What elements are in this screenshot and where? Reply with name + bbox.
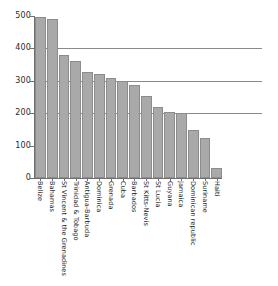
y-tick-label: 200: [15, 109, 31, 117]
bar: [82, 72, 93, 178]
x-tick-label: St Kitts-Nevis: [143, 181, 150, 226]
y-tick-label: 400: [15, 44, 31, 52]
x-tick-label: St Vincent & the Grenadines: [61, 181, 68, 276]
y-tick-label: 500: [15, 12, 31, 20]
bar: [70, 61, 81, 178]
x-tick-label: Grenada: [108, 181, 115, 209]
bar: [211, 168, 222, 178]
bar: [200, 138, 211, 179]
y-tick-label: 300: [15, 77, 31, 85]
bar: [141, 96, 152, 178]
bar: [59, 55, 70, 178]
x-tick-label: Bahamas: [49, 181, 56, 212]
bar: [164, 112, 175, 178]
bar: [106, 78, 117, 178]
bar: [35, 17, 46, 178]
x-tick-label: Antigua-Barbuda: [84, 181, 91, 237]
x-label-cell: Barbados: [129, 181, 140, 285]
x-label-cell: Haiti: [211, 181, 222, 285]
bar: [188, 130, 199, 178]
x-tick-label: Guyana: [166, 181, 173, 207]
x-axis-labels: BelizeBahamasSt Vincent & the Grenadines…: [35, 181, 222, 285]
x-tick-label: Belize: [37, 181, 44, 201]
x-tick-label: Haiti: [213, 181, 220, 197]
x-label-cell: Antigua-Barbuda: [82, 181, 93, 285]
x-tick-label: Dominican republic: [190, 181, 197, 246]
bar: [47, 19, 58, 178]
x-tick-label: Dominica: [96, 181, 103, 212]
x-label-cell: Grenada: [106, 181, 117, 285]
x-tick-label: Suriname: [202, 181, 209, 213]
x-tick-label: St Lucia: [155, 181, 162, 208]
x-label-cell: St Vincent & the Grenadines: [59, 181, 70, 285]
bar-series: [35, 16, 222, 178]
bar: [117, 81, 128, 178]
x-label-cell: St Kitts-Nevis: [141, 181, 152, 285]
x-label-cell: Jamaica: [176, 181, 187, 285]
y-tick-label: 100: [15, 142, 31, 150]
x-label-cell: Belize: [35, 181, 46, 285]
x-tick-label: Trinidad & Tobago: [72, 181, 79, 241]
x-tick-label: Barbados: [131, 181, 138, 213]
bar-chart: 0100200300400500 BelizeBahamasSt Vincent…: [0, 0, 278, 286]
bar: [94, 74, 105, 178]
x-tick-label: Cuba: [119, 181, 126, 198]
bar: [129, 85, 140, 178]
x-label-cell: Cuba: [117, 181, 128, 285]
x-label-cell: Bahamas: [47, 181, 58, 285]
y-axis: 0100200300400500: [0, 0, 31, 286]
bar: [176, 113, 187, 178]
x-label-cell: Dominican republic: [188, 181, 199, 285]
x-label-cell: Trinidad & Tobago: [70, 181, 81, 285]
x-label-cell: Guyana: [164, 181, 175, 285]
x-tick-label: Jamaica: [178, 181, 185, 207]
x-label-cell: Dominica: [94, 181, 105, 285]
x-label-cell: Suriname: [200, 181, 211, 285]
x-label-cell: St Lucia: [153, 181, 164, 285]
bar: [153, 107, 164, 178]
